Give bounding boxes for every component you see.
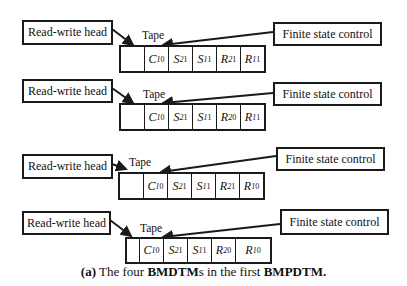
tape-cell: R20 [212,239,236,262]
finite-state-control-label-2: Finite state control [273,82,382,106]
finite-state-control-label-4: Finite state control [280,209,389,235]
tape-cell: S11 [193,47,217,71]
tape-3: C10 S21 S11 R21 R10 [118,172,265,200]
tape-cell: S21 [168,174,192,198]
caption-bold-term: BMPDTM [264,264,323,279]
tape-cell: S21 [164,239,188,262]
tape-cell: S21 [169,47,193,71]
tape-4: C10 S21 S11 R20 R10 [125,237,272,264]
tape-cell: R21 [217,47,241,71]
caption-text: s in the first [199,264,264,279]
tape-cell: S21 [169,105,193,129]
figure-caption: (a) The four BMDTMs in the first BMPDTM. [0,264,407,280]
caption-bold-term: BMDTM [147,264,198,279]
tape-label-3: Tape [129,156,151,168]
tape-cell: R21 [216,174,240,198]
tape-cell: C10 [140,239,164,262]
tape-cell [127,239,140,262]
tape-label-2: Tape [143,88,165,100]
caption-prefix: (a) [81,264,96,279]
finite-state-control-label-1: Finite state control [273,22,382,46]
caption-suffix: . [323,264,326,279]
tape-cell: R11 [241,47,264,71]
tape-cell: R10 [236,239,270,262]
tape-cell: R20 [217,105,241,129]
tape-label-4: Tape [140,222,162,234]
read-write-head-label-1: Read-write head [22,20,113,45]
tape-cell: C10 [145,47,169,71]
tape-2: C10 S21 S11 R20 R11 [119,103,266,131]
tape-cell [121,105,145,129]
tape-label-1: Tape [142,29,164,41]
read-write-head-label-3: Read-write head [22,154,113,179]
tape-cell: S11 [192,174,216,198]
tape-1: C10 S21 S11 R21 R11 [119,45,266,73]
tape-cell [121,47,145,71]
read-write-head-label-4: Read-write head [22,211,111,235]
read-write-head-label-2: Read-write head [22,79,113,103]
tape-cell: C10 [145,105,169,129]
tape-cell [120,174,144,198]
finite-state-control-label-3: Finite state control [276,147,385,171]
tape-cell: S11 [193,105,217,129]
tape-cell: R10 [240,174,263,198]
tape-cell: R11 [241,105,264,129]
caption-text: The four [96,264,147,279]
tape-cell: S11 [188,239,212,262]
tape-cell: C10 [144,174,168,198]
